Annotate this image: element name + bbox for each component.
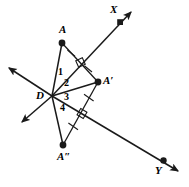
angle-label-3: 3 [64, 92, 69, 102]
point-label-A: A [59, 24, 66, 35]
tick-mid2-to-Adouble [68, 123, 78, 130]
ray-label-X: X [110, 4, 117, 15]
ray-DY [52, 96, 178, 171]
figure-canvas [0, 0, 189, 187]
tick-Aprime-to-mid2 [84, 94, 94, 101]
ray-label-Y: Y [155, 165, 162, 176]
ray-DX-opposite [9, 68, 52, 96]
geometry-figure: A A′ A″ D X Y 1 2 3 4 [0, 0, 189, 187]
segment-group [52, 43, 98, 145]
angle-label-2: 2 [64, 78, 69, 88]
point-dot-A [59, 40, 66, 47]
point-dot-X [117, 19, 123, 25]
ray-group [9, 12, 178, 171]
angle-label-1: 1 [58, 67, 63, 77]
point-dot-Y [160, 157, 166, 163]
point-dot-Aprime [95, 79, 102, 86]
point-label-D: D [36, 90, 44, 101]
angle-label-4: 4 [60, 103, 65, 113]
point-dot-Adouble [60, 142, 67, 149]
tick-A-to-mid [67, 50, 75, 56]
point-label-A-prime: A′ [103, 75, 113, 86]
point-dot-group [59, 19, 167, 164]
point-label-A-double-prime: A″ [57, 151, 70, 162]
